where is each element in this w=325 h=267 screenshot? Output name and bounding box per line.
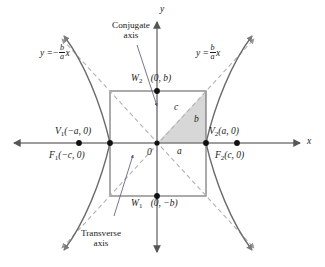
focus-left-label: F1(−c, 0) xyxy=(49,150,85,162)
asymptote-right-prefix: y = xyxy=(196,48,209,58)
asymptote-right-variable: x xyxy=(216,48,220,58)
focus-left-point xyxy=(76,140,82,146)
covertex-bottom-coords: (0, −b) xyxy=(151,198,178,208)
vertex-left-point xyxy=(107,140,113,146)
asymptote-left-equation: y =−bax xyxy=(40,44,70,61)
asymptote-left-prefix: y = xyxy=(40,48,53,58)
focus-right-label: F2(c, 0) xyxy=(215,150,244,162)
covertex-bottom-index: 1 xyxy=(139,202,142,209)
covertex-bottom-name: W xyxy=(131,198,139,208)
conjugate-axis-label: Conjugate axis xyxy=(95,20,167,41)
transverse-axis-line2: axis xyxy=(94,238,109,248)
triangle-horizontal-leg-label: a xyxy=(177,146,182,157)
covertex-bottom-label: W1 (0, −b) xyxy=(131,198,178,210)
conjugate-axis-line1: Conjugate xyxy=(112,20,150,30)
asymptote-left-sign: − xyxy=(53,48,58,58)
hyperbola-diagram: y x 0 Conjugate axis Transverse axis y =… xyxy=(0,0,325,267)
asymptote-right-fraction: ba xyxy=(210,44,216,61)
conjugate-axis-line2: axis xyxy=(124,30,139,40)
y-axis-label: y xyxy=(160,4,164,15)
covertex-top-point xyxy=(154,88,160,94)
focus-right-coords: (c, 0) xyxy=(224,150,244,160)
asymptote-right-numerator: b xyxy=(210,44,216,52)
focus-left-coords: (−c, 0) xyxy=(58,150,84,160)
transverse-axis-label: Transverse axis xyxy=(62,228,140,249)
origin-label: 0 xyxy=(147,147,152,158)
covertex-top-label: W2 (0, b) xyxy=(131,73,171,85)
x-axis-label: x xyxy=(307,136,311,147)
vertex-left-label: V1(−a, 0) xyxy=(55,126,91,138)
covertex-top-index: 2 xyxy=(139,77,142,84)
triangle-vertical-leg-label: b xyxy=(194,114,199,125)
triangle-hypotenuse-label: c xyxy=(174,102,178,113)
asymptote-left-variable: x xyxy=(65,48,69,58)
vertex-right-point xyxy=(203,140,209,146)
transverse-axis-line1: Transverse xyxy=(81,228,121,238)
covertex-top-name: W xyxy=(131,73,139,83)
vertex-left-coords: (−a, 0) xyxy=(64,126,91,136)
vertex-right-coords: (a, 0) xyxy=(218,126,239,136)
covertex-top-coords: (0, b) xyxy=(151,73,172,83)
vertex-right-label: V2(a, 0) xyxy=(209,126,239,138)
origin-point xyxy=(154,140,159,145)
asymptote-right-equation: y =bax xyxy=(196,44,220,61)
focus-right-point xyxy=(234,140,240,146)
asymptote-right-denominator: a xyxy=(210,52,216,61)
